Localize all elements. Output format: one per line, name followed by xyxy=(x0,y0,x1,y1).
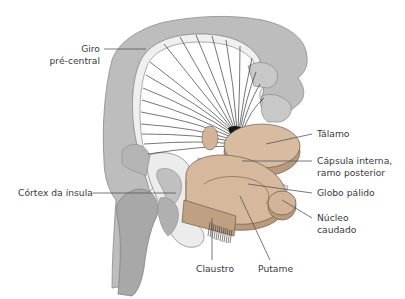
label-globo-palido: Globo pálido xyxy=(317,187,375,198)
label-claustro: Claustro xyxy=(196,263,234,274)
label-nucleo-line2: caudado xyxy=(317,224,357,235)
label-capsula-line1: Cápsula interna, xyxy=(317,155,392,166)
brain-diagram: Giro pré-central Tálamo Cápsula interna,… xyxy=(0,0,405,299)
label-giro-line2: pré-central xyxy=(50,55,100,66)
label-cortex-insula: Córtex da ínsula xyxy=(18,187,93,198)
label-nucleo-line1: Núcleo xyxy=(317,212,349,223)
label-talamo: Tálamo xyxy=(316,128,350,139)
brain-illustration: Giro pré-central Tálamo Cápsula interna,… xyxy=(0,0,405,299)
label-capsula-line2: ramo posterior xyxy=(317,167,385,178)
label-putame: Putame xyxy=(258,263,293,274)
label-giro-line1: Giro xyxy=(81,43,100,54)
